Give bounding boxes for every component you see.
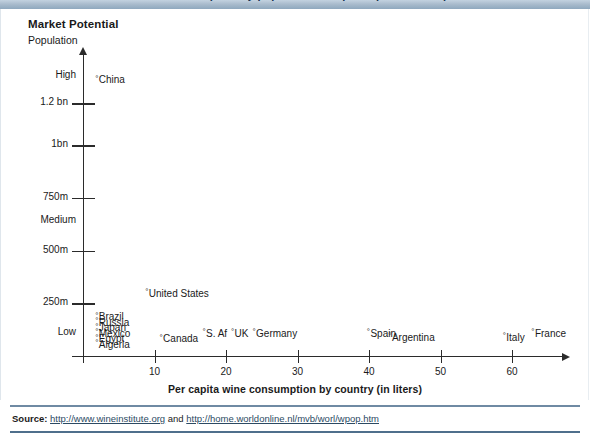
- data-point-label: °UK: [231, 328, 249, 339]
- data-point-name: Argentina: [392, 332, 435, 343]
- x-axis-tick-label: 60: [497, 366, 527, 377]
- data-point-name: S. Af: [206, 328, 227, 339]
- y-axis-tick: [72, 145, 95, 146]
- y-axis-tick-label: 1.2 bn: [40, 96, 68, 107]
- data-point-marker-icon: °: [231, 327, 235, 336]
- scatter-chart: Market Potential Population 1.2 bn1bn750…: [0, 9, 590, 400]
- data-point-name: Algeria: [99, 339, 130, 350]
- data-point-label: °China: [95, 74, 125, 85]
- x-axis-arrow-icon: [562, 353, 570, 361]
- x-axis-tick-label: 10: [140, 366, 170, 377]
- y-axis-arrow-icon: [79, 47, 87, 55]
- data-point-marker-icon: °: [388, 331, 392, 340]
- data-point-marker-icon: °: [160, 333, 164, 342]
- data-point-label: °Italy: [503, 332, 525, 343]
- x-axis-tick: [512, 350, 513, 363]
- y-axis-band-label: Low: [58, 326, 76, 337]
- data-point-marker-icon: °: [145, 287, 149, 296]
- source-label: Source:: [12, 413, 47, 424]
- x-axis-tick: [298, 350, 299, 363]
- x-axis-tick: [83, 350, 84, 363]
- y-axis-tick: [72, 251, 95, 252]
- data-point-marker-icon: °: [531, 327, 535, 336]
- data-point-label: °United States: [145, 288, 209, 299]
- data-point-name: France: [535, 328, 566, 339]
- data-point-label: °Canada: [160, 333, 199, 344]
- x-axis-tick-label: 30: [283, 366, 313, 377]
- y-axis-tick-label: 500m: [43, 244, 68, 255]
- footer-divider: [10, 405, 580, 407]
- data-point-label: °Algeria: [95, 339, 130, 350]
- bottom-divider: [10, 431, 580, 433]
- y-axis-tick: [72, 198, 95, 199]
- x-axis-tick-label: 40: [354, 366, 384, 377]
- y-axis-tick: [72, 103, 95, 104]
- data-point-name: China: [99, 74, 125, 85]
- x-axis-tick-label: 50: [426, 366, 456, 377]
- data-point-label: °Argentina: [388, 332, 434, 343]
- data-point-name: Germany: [256, 328, 297, 339]
- page-header-banner: Market Potential for wine consumption by…: [0, 0, 590, 9]
- x-axis-tick: [441, 350, 442, 363]
- data-point-label: °S. Af: [202, 328, 227, 339]
- x-axis-tick: [369, 350, 370, 363]
- y-axis-band-label: Medium: [40, 214, 76, 225]
- y-axis-line: [83, 53, 84, 357]
- y-axis-tick: [72, 303, 95, 304]
- source-line: Source: http://www.wineinstitute.org and…: [12, 413, 379, 424]
- data-point-marker-icon: °: [367, 327, 371, 336]
- source-link-2[interactable]: http://home.worldonline.nl/mvb/worl/wpop…: [186, 413, 379, 424]
- data-point-marker-icon: °: [95, 74, 99, 83]
- x-axis-line: [72, 356, 564, 357]
- y-axis-tick-label: 750m: [43, 191, 68, 202]
- chart-title: Market Potential: [28, 18, 118, 30]
- data-point-marker-icon: °: [252, 327, 256, 336]
- data-point-marker-icon: °: [503, 331, 507, 340]
- data-point-name: United States: [149, 288, 209, 299]
- y-axis-title: Population: [28, 34, 78, 46]
- source-link-1[interactable]: http://www.wineinstitute.org: [50, 413, 165, 424]
- data-point-label: °Germany: [252, 328, 297, 339]
- data-point-name: UK: [235, 328, 249, 339]
- x-axis-tick: [226, 350, 227, 363]
- data-point-label: °France: [531, 328, 566, 339]
- y-axis-tick-label: 250m: [43, 296, 68, 307]
- y-axis-band-label: High: [55, 69, 76, 80]
- y-axis-tick-label: 1bn: [51, 138, 68, 149]
- data-point-marker-icon: °: [202, 327, 206, 336]
- data-point-name: Italy: [506, 332, 524, 343]
- source-conjunction: and: [168, 413, 184, 424]
- data-point-name: Canada: [163, 333, 198, 344]
- x-axis-tick: [155, 350, 156, 363]
- data-point-marker-icon: °: [95, 338, 99, 347]
- x-axis-tick-label: 20: [211, 366, 241, 377]
- banner-title: Market Potential for wine consumption by…: [28, 0, 471, 1]
- x-axis-title: Per capita wine consumption by country (…: [0, 383, 590, 395]
